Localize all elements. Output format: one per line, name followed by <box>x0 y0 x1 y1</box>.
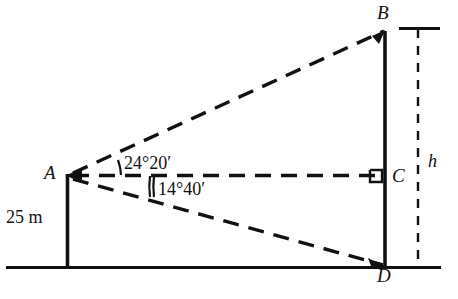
angle-arc-depression <box>149 176 150 197</box>
point-label-a: A <box>44 163 56 182</box>
angle-label-depression: 14°40′ <box>158 180 205 198</box>
geometry-diagram: A B C D 25 m h 24°20′ 14°40′ <box>0 0 458 299</box>
unknown-height-label: h <box>428 152 437 170</box>
point-label-c: C <box>392 166 405 185</box>
angle-label-elevation: 24°20′ <box>124 154 171 172</box>
angle-arc-elevation <box>118 160 121 175</box>
arrowhead-at-b <box>372 30 385 44</box>
point-label-b: B <box>377 3 389 22</box>
point-label-d: D <box>377 266 391 285</box>
sight-line-ad <box>73 179 383 265</box>
figure-canvas <box>0 0 458 299</box>
angle-arc-depression-inner <box>153 176 154 197</box>
sight-line-ab <box>73 31 384 173</box>
observer-height-label: 25 m <box>6 208 43 226</box>
